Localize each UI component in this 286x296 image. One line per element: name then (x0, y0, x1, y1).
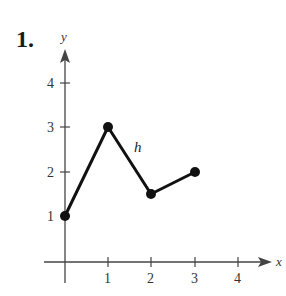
x-tick-label: 4 (234, 271, 241, 286)
x-tick-label: 1 (104, 271, 111, 286)
chart: 1 2 3 4 1 2 3 4 x y h (0, 0, 286, 296)
y-tick-label: 3 (47, 120, 54, 135)
y-axis-label: y (59, 29, 67, 44)
x-axis-label: x (275, 254, 282, 269)
function-label: h (134, 139, 142, 155)
y-tick-label: 4 (47, 76, 54, 91)
x-tick-label: 3 (191, 271, 198, 286)
y-tick-label: 1 (47, 209, 54, 224)
data-points (60, 122, 200, 221)
y-tick-label: 2 (47, 165, 54, 180)
function-h-line (65, 127, 195, 216)
x-tick-label: 2 (147, 271, 154, 286)
